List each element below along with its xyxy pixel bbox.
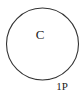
circle-shape (7, 8, 79, 80)
circle-label: C (36, 27, 45, 42)
point-label: 1P (56, 80, 68, 92)
circle-diagram: C 1P (0, 0, 84, 94)
